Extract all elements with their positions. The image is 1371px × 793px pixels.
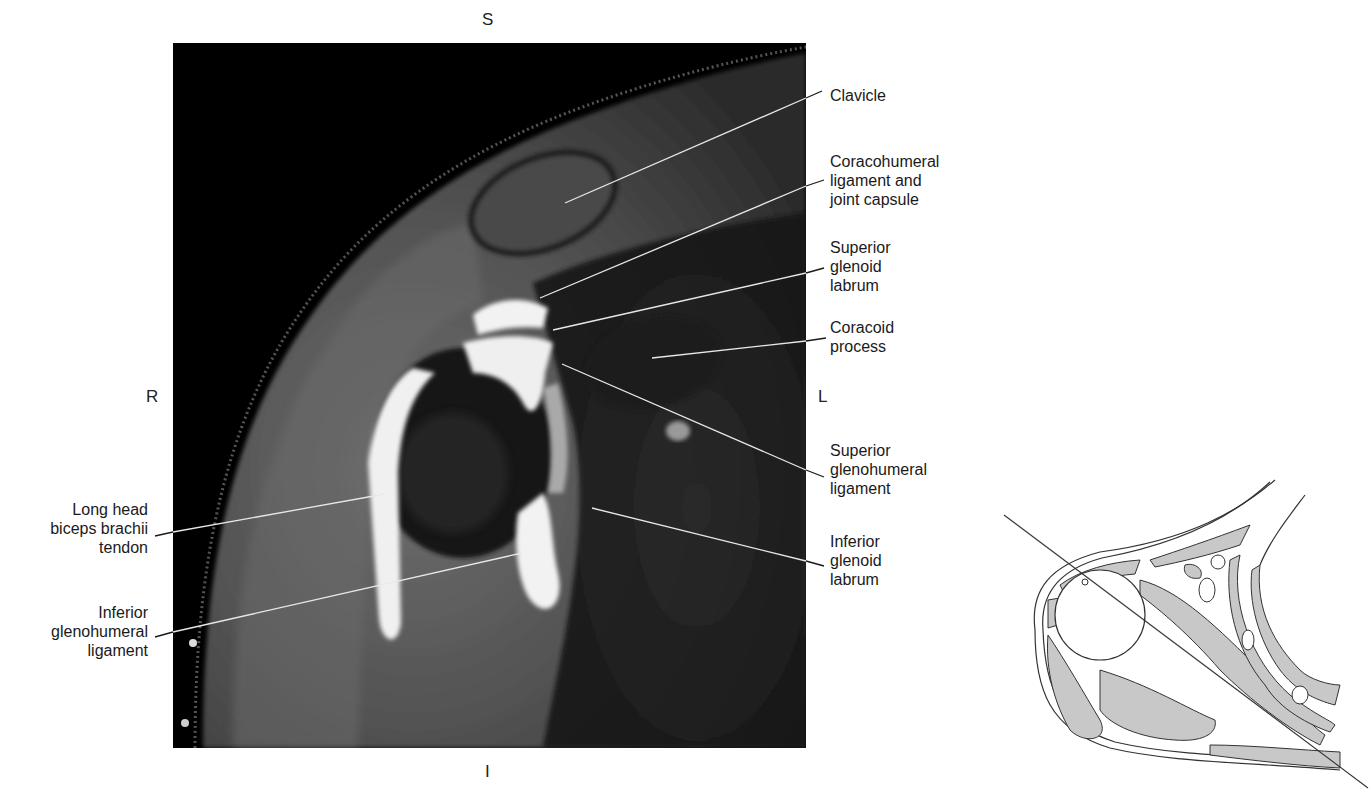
orientation-inferior: I (485, 762, 490, 782)
label-superior-glenohumeral-ligament: Superior glenohumeral ligament (830, 441, 927, 498)
mri-image (173, 43, 806, 748)
label-coracoid-process: Coracoid process (830, 318, 894, 356)
orientation-right: R (146, 387, 158, 407)
orientation-inset-diagram (990, 470, 1371, 793)
label-inferior-glenoid-labrum: Inferior glenoid labrum (830, 532, 882, 589)
orientation-left: L (818, 387, 827, 407)
label-superior-glenoid-labrum: Superior glenoid labrum (830, 238, 890, 295)
label-inferior-glenohumeral-ligament: Inferior glenohumeral ligament (0, 603, 148, 660)
label-long-head-biceps-tendon: Long head biceps brachii tendon (0, 500, 148, 557)
label-coracohumeral-ligament: Coracohumeral ligament and joint capsule (830, 152, 939, 209)
mri-anatomy-illustration (173, 43, 806, 748)
orientation-superior: S (482, 10, 493, 30)
label-clavicle: Clavicle (830, 86, 886, 105)
